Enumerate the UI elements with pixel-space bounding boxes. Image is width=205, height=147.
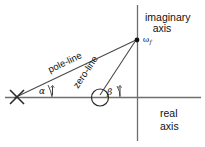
beta-angle-label: β [106,87,112,97]
frequency-point-marker [135,38,140,43]
pole-line-label: pole-line [46,49,83,74]
alpha-angle-label: α [39,86,45,96]
frequency-point-label: ω f [143,35,153,46]
pole-zero-diagram: imaginary axis real axis ω f pole-line z… [0,0,205,147]
real-axis-label-line2: axis [160,120,179,132]
omega-symbol: ω [143,35,149,44]
alpha-angle-arc [48,85,54,97]
beta-angle-arc [117,85,122,97]
diagram-canvas: imaginary axis real axis ω f pole-line z… [0,0,205,147]
imaginary-axis-label-line2: axis [153,22,172,34]
omega-subscript: f [149,39,153,46]
real-axis-label-line1: real [160,107,178,119]
pole-line [14,40,136,98]
